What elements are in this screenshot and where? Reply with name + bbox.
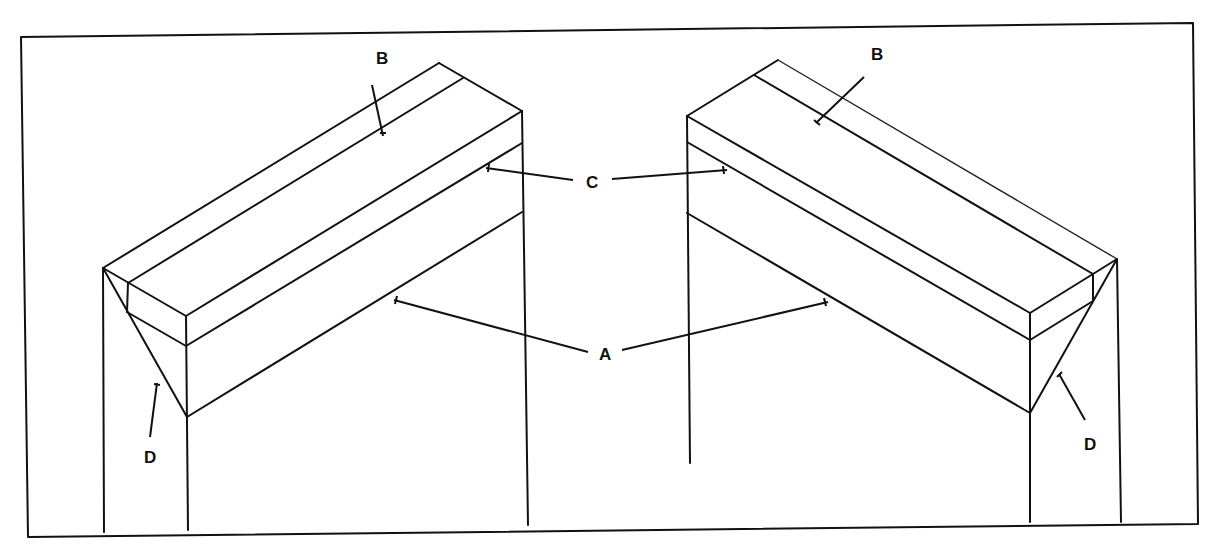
callout-d-right: D bbox=[1057, 372, 1096, 454]
callout-b-left: B bbox=[372, 49, 388, 136]
figure-frame bbox=[21, 23, 1198, 537]
diagram-canvas: B B C A D D bbox=[0, 0, 1215, 555]
right-beam bbox=[687, 60, 1121, 522]
callout-b-right: B bbox=[814, 45, 883, 125]
label-a: A bbox=[599, 345, 611, 364]
callout-d-left: D bbox=[144, 383, 160, 467]
label-b-right: B bbox=[871, 45, 883, 64]
label-d-left: D bbox=[144, 448, 156, 467]
diagram-figure: B B C A D D bbox=[0, 0, 1215, 555]
callout-a: A bbox=[394, 296, 828, 364]
left-beam bbox=[103, 63, 528, 532]
label-d-right: D bbox=[1084, 435, 1096, 454]
label-b-left: B bbox=[376, 49, 388, 68]
label-c: C bbox=[586, 173, 598, 192]
